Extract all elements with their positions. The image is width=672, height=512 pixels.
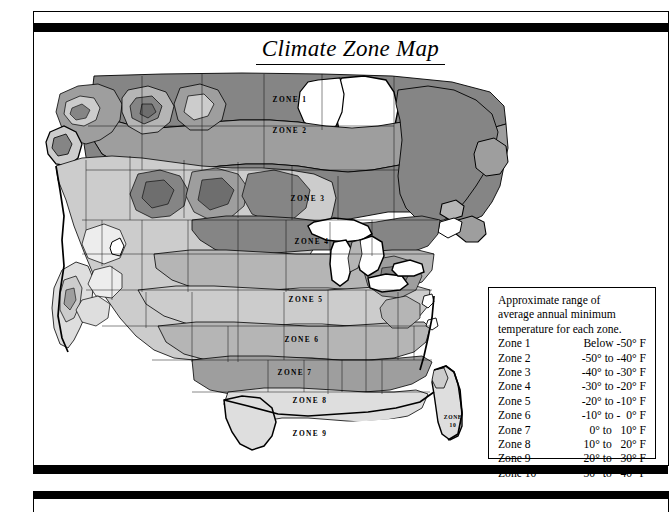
zone-label-8: ZONE 8 [293,396,328,405]
florida-panhandle-tone [432,368,448,388]
legend-zone-name: Zone 10 [498,467,536,481]
zone-label-10-line2: 10 [450,422,457,428]
legend-zone-name: Zone 9 [498,452,531,466]
legend-zone-name: Zone 5 [498,395,531,409]
legend-zone-range: Below -50° F [583,337,646,351]
legend-row: Zone 6-10° to - 0° F [498,409,646,423]
legend-zone-name: Zone 8 [498,438,531,452]
legend-row: Zone 9 20° to 30° F [498,452,646,466]
zone-label-5: ZONE 5 [289,295,324,304]
labrador-region [474,138,508,176]
legend-zone-range: -30° to -20° F [582,380,646,394]
legend-zone-name: Zone 3 [498,366,531,380]
legend-heading-line-1: Approximate range of [498,294,646,308]
legend-row: Zone 8 10° to 20° F [498,438,646,452]
next-panel-top-rule [33,491,668,499]
legend-zone-range: 30° to 40° F [581,467,646,481]
page-title: Climate Zone Map [256,36,445,65]
legend-row: Zone 2-50° to -40° F [498,352,646,366]
climate-zone-map-page: Climate Zone Map [0,0,672,512]
legend-zone-range: 0° to 10° F [584,424,646,438]
zone-label-10-line1: ZONE [444,414,462,420]
zone-label-4: ZONE 4 [295,237,330,246]
zone-label-3: ZONE 3 [291,194,326,203]
legend-row: Zone 7 0° to 10° F [498,424,646,438]
zone-label-9: ZONE 9 [293,429,328,438]
panel-top-rule [33,23,668,32]
legend-row: Zone 4-30° to -20° F [498,380,646,394]
legend-row: Zone 3-40° to -30° F [498,366,646,380]
legend-row: Zone 5-20° to -10° F [498,395,646,409]
zone-label-2: ZONE 2 [273,126,308,135]
legend-heading-line-3: temperature for each zone. [498,323,646,337]
map-svg: ZONE 1 ZONE 2 ZONE 3 ZONE 4 ZONE 5 ZONE … [42,70,522,462]
zone-label-1: ZONE 1 [273,95,308,104]
legend-heading: Approximate range of average annual mini… [498,294,646,337]
legend-heading-line-2: average annual minimum [498,308,646,322]
legend-box: Approximate range of average annual mini… [488,287,656,459]
legend-zone-name: Zone 6 [498,409,531,423]
legend-zone-name: Zone 2 [498,352,531,366]
legend-zone-range: 20° to 30° F [581,452,646,466]
zone-label-6: ZONE 6 [285,335,320,344]
page-title-container: Climate Zone Map [33,36,668,65]
legend-zone-range: -10° to - 0° F [582,409,646,423]
legend-zone-range: -20° to -10° F [582,395,646,409]
legend-row: Zone 1Below -50° F [498,337,646,351]
legend-row-list: Zone 1Below -50° F Zone 2-50° to -40° F … [498,337,646,481]
map-canvas: ZONE 1 ZONE 2 ZONE 3 ZONE 4 ZONE 5 ZONE … [42,70,522,462]
legend-row: Zone 10 30° to 40° F [498,467,646,481]
legend-zone-range: -40° to -30° F [582,366,646,380]
legend-zone-name: Zone 1 [498,337,531,351]
legend-zone-name: Zone 7 [498,424,531,438]
zone-label-7: ZONE 7 [278,368,313,377]
lake-erie-water [368,274,408,292]
legend-zone-range: -50° to -40° F [582,352,646,366]
legend-zone-name: Zone 4 [498,380,531,394]
legend-zone-range: 10° to 20° F [581,438,646,452]
